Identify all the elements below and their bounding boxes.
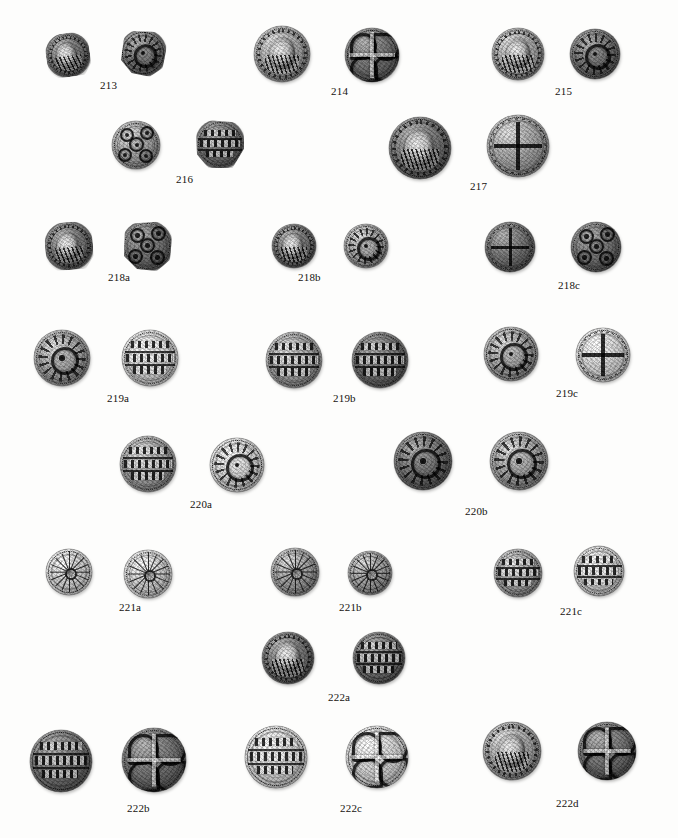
surface-texture — [487, 115, 549, 177]
surface-texture — [394, 432, 452, 490]
coin-caption-222c: 222c — [340, 803, 362, 814]
coin-214-reverse — [345, 28, 399, 82]
coin-caption-221b: 221b — [339, 602, 362, 613]
surface-texture — [266, 332, 322, 388]
surface-texture — [245, 726, 307, 788]
surface-texture — [196, 120, 244, 168]
coin-219a-reverse — [122, 330, 178, 386]
surface-texture — [43, 220, 94, 271]
coin-caption-219a: 219a — [107, 393, 129, 404]
coin-222b-reverse — [122, 728, 186, 792]
coin-218b-obverse — [272, 224, 316, 268]
coin-caption-222b: 222b — [127, 803, 150, 814]
coin-222d-reverse — [578, 722, 636, 780]
coin-220b-reverse — [490, 432, 548, 490]
coin-caption-220a: 220a — [190, 499, 212, 510]
surface-texture — [348, 551, 392, 595]
surface-texture — [122, 330, 178, 386]
surface-texture — [344, 224, 388, 268]
surface-texture — [571, 222, 621, 272]
surface-texture — [112, 121, 160, 169]
coin-220b-obverse — [394, 432, 452, 490]
coin-caption-216: 216 — [176, 174, 193, 185]
surface-texture — [494, 549, 542, 597]
coin-219b-reverse — [352, 332, 408, 388]
coin-222c-reverse — [346, 726, 408, 788]
coin-caption-213: 213 — [100, 80, 117, 91]
surface-texture — [122, 728, 186, 792]
coin-caption-220b: 220b — [465, 506, 488, 517]
coin-220a-reverse — [210, 438, 264, 492]
coin-221c-obverse — [494, 549, 542, 597]
surface-texture — [46, 549, 92, 595]
coin-217-reverse — [487, 115, 549, 177]
coin-218b-reverse — [344, 224, 388, 268]
coin-221a-reverse — [124, 550, 172, 598]
surface-texture — [570, 29, 620, 79]
coin-221a-obverse — [46, 549, 92, 595]
coin-caption-219c: 219c — [556, 388, 578, 399]
coin-216-obverse — [112, 121, 160, 169]
surface-texture — [352, 332, 408, 388]
coin-222a-reverse — [353, 632, 405, 684]
coin-caption-221a: 221a — [119, 602, 141, 613]
coin-caption-217: 217 — [470, 181, 487, 192]
surface-texture — [483, 722, 541, 780]
coin-caption-222a: 222a — [328, 692, 350, 703]
coin-218a-reverse — [122, 221, 172, 271]
surface-texture — [272, 224, 316, 268]
coin-222d-obverse — [483, 722, 541, 780]
surface-texture — [576, 328, 630, 382]
coin-215-obverse — [492, 28, 544, 80]
surface-texture — [254, 26, 310, 82]
surface-texture — [34, 330, 90, 386]
surface-texture — [485, 222, 535, 272]
surface-texture — [118, 28, 169, 79]
coin-220a-obverse — [120, 436, 176, 492]
coin-219b-obverse — [266, 332, 322, 388]
coin-caption-218c: 218c — [558, 280, 580, 291]
coin-caption-215: 215 — [555, 86, 572, 97]
coin-caption-222d: 222d — [556, 798, 579, 809]
coin-218c-reverse — [571, 222, 621, 272]
surface-texture — [262, 632, 314, 684]
coin-caption-219b: 219b — [333, 393, 356, 404]
coin-218a-obverse — [43, 220, 94, 271]
coin-caption-218a: 218a — [108, 272, 130, 283]
surface-texture — [490, 432, 548, 490]
coin-216-reverse — [196, 120, 244, 168]
surface-texture — [578, 722, 636, 780]
coin-219c-reverse — [576, 328, 630, 382]
surface-texture — [210, 438, 264, 492]
surface-texture — [120, 436, 176, 492]
surface-texture — [43, 30, 93, 80]
surface-texture — [574, 546, 624, 596]
surface-texture — [122, 221, 172, 271]
surface-texture — [345, 28, 399, 82]
surface-texture — [30, 730, 92, 792]
coin-221b-reverse — [348, 551, 392, 595]
surface-texture — [353, 632, 405, 684]
coin-caption-218b: 218b — [298, 272, 321, 283]
coin-221b-obverse — [271, 548, 319, 596]
coin-213-reverse — [118, 28, 169, 79]
coin-219c-obverse — [484, 327, 538, 381]
coin-caption-221c: 221c — [560, 606, 582, 617]
coin-222c-obverse — [245, 726, 307, 788]
coin-222a-obverse — [262, 632, 314, 684]
coin-221c-reverse — [574, 546, 624, 596]
surface-texture — [271, 548, 319, 596]
surface-texture — [124, 550, 172, 598]
surface-texture — [492, 28, 544, 80]
coin-213-obverse — [43, 30, 93, 80]
coin-caption-214: 214 — [331, 86, 348, 97]
coin-214-obverse — [254, 26, 310, 82]
surface-texture — [389, 117, 451, 179]
coin-222b-obverse — [30, 730, 92, 792]
coin-217-obverse — [389, 117, 451, 179]
surface-texture — [484, 327, 538, 381]
surface-texture — [346, 726, 408, 788]
coin-plate: 213214215216217218a218b218c219a219b219c2… — [0, 0, 678, 838]
coin-219a-obverse — [34, 330, 90, 386]
coin-215-reverse — [570, 29, 620, 79]
